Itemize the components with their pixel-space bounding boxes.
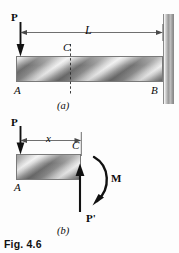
label-load-p-b: P (11, 117, 18, 128)
label-reaction-p-prime: P' (86, 213, 96, 224)
sublabel-b: (b) (57, 226, 69, 237)
moment-arrow-m (93, 157, 107, 206)
figure-4-6: P L C A B (a) P x (0, 0, 179, 253)
reaction-arrow-p-prime (76, 164, 85, 213)
label-point-a-b: A (14, 182, 21, 193)
label-moment-m: M (111, 173, 121, 184)
label-point-c-b: C (72, 140, 79, 151)
label-dimension-x: x (46, 133, 51, 144)
figure-caption: Fig. 4.6 (4, 238, 42, 250)
